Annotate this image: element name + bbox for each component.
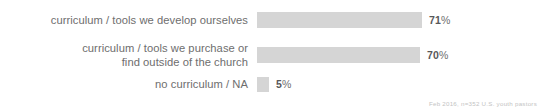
chart-row-no-curriculum: no curriculum / NA 5% bbox=[0, 74, 545, 94]
bar bbox=[257, 12, 422, 28]
value-number: 70 bbox=[427, 49, 439, 61]
bar-area: 71% bbox=[248, 8, 545, 32]
value-number: 71 bbox=[429, 14, 441, 26]
value-percent-sign: % bbox=[282, 78, 292, 90]
bar-area: 5% bbox=[248, 74, 545, 94]
horizontal-bar-chart: curriculum / tools we develop ourselves … bbox=[0, 0, 545, 110]
bar-area: 70% bbox=[248, 40, 545, 70]
value-percent-sign: % bbox=[441, 14, 451, 26]
value-percent-sign: % bbox=[439, 49, 449, 61]
category-label: curriculum / tools we develop ourselves bbox=[0, 13, 248, 27]
bar bbox=[257, 47, 420, 63]
chart-row-develop-ourselves: curriculum / tools we develop ourselves … bbox=[0, 8, 545, 32]
bar bbox=[257, 77, 269, 92]
chart-footnote: Feb 2016, n=352 U.S. youth pastors bbox=[429, 100, 537, 107]
value-label: 70% bbox=[427, 49, 449, 61]
value-label: 71% bbox=[429, 14, 451, 26]
category-label: no curriculum / NA bbox=[0, 77, 248, 91]
category-label: curriculum / tools we purchase or find o… bbox=[0, 41, 248, 69]
chart-row-purchase-outside: curriculum / tools we purchase or find o… bbox=[0, 40, 545, 70]
value-label: 5% bbox=[276, 78, 292, 90]
